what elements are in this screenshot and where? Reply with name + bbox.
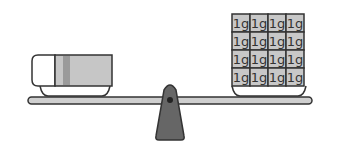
gram-weight: 1g: [250, 68, 268, 86]
balance-scale-diagram: 1g1g1g1g1g1g1g1g1g1g1g1g1g1g1g1g: [0, 0, 346, 162]
gram-weight: 1g: [250, 14, 268, 32]
gram-weight-label: 1g: [251, 52, 268, 67]
gram-weight-label: 1g: [269, 34, 286, 49]
left-pan: [40, 86, 110, 96]
gram-weight-label: 1g: [269, 70, 286, 85]
gram-weight: 1g: [268, 32, 286, 50]
gram-weight-label: 1g: [233, 16, 250, 31]
gram-weight: 1g: [232, 32, 250, 50]
gram-weight: 1g: [232, 14, 250, 32]
gram-weight-label: 1g: [251, 34, 268, 49]
gram-weight-label: 1g: [287, 52, 304, 67]
gram-weight: 1g: [286, 50, 304, 68]
gram-weight: 1g: [232, 68, 250, 86]
eraser: [32, 55, 112, 86]
pivot-icon: [167, 97, 173, 103]
weights-grid: 1g1g1g1g1g1g1g1g1g1g1g1g1g1g1g1g: [232, 14, 304, 86]
gram-weight-label: 1g: [251, 70, 268, 85]
gram-weight: 1g: [232, 50, 250, 68]
fulcrum: [156, 85, 184, 140]
gram-weight: 1g: [268, 50, 286, 68]
gram-weight-label: 1g: [287, 70, 304, 85]
gram-weight: 1g: [268, 14, 286, 32]
gram-weight-label: 1g: [251, 16, 268, 31]
gram-weight: 1g: [250, 50, 268, 68]
gram-weight-label: 1g: [287, 34, 304, 49]
eraser-body: [32, 55, 55, 86]
eraser-stripe: [63, 56, 70, 85]
gram-weight-label: 1g: [233, 52, 250, 67]
gram-weight: 1g: [286, 68, 304, 86]
gram-weight-label: 1g: [233, 70, 250, 85]
right-pan: [232, 86, 306, 96]
gram-weight: 1g: [286, 14, 304, 32]
gram-weight-label: 1g: [269, 16, 286, 31]
gram-weight: 1g: [286, 32, 304, 50]
gram-weight: 1g: [268, 68, 286, 86]
gram-weight-label: 1g: [233, 34, 250, 49]
gram-weight-label: 1g: [269, 52, 286, 67]
gram-weight: 1g: [250, 32, 268, 50]
gram-weight-label: 1g: [287, 16, 304, 31]
